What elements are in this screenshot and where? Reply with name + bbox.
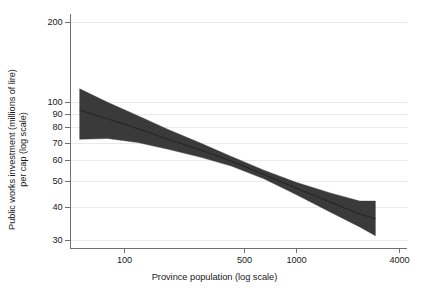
y-tick-label: 200 <box>47 17 62 27</box>
y-tick-label: 50 <box>52 176 62 186</box>
x-tick-label: 100 <box>117 255 132 265</box>
x-tick-label: 1000 <box>286 255 306 265</box>
y-tick-label: 100 <box>47 97 62 107</box>
chart-figure: Public works investment (millions of lir… <box>0 0 429 299</box>
y-tick-label: 30 <box>52 235 62 245</box>
x-axis-ticks: 10050010004000 <box>117 248 410 265</box>
y-tick-label: 70 <box>52 138 62 148</box>
y-tick-label: 80 <box>52 122 62 132</box>
x-tick-label: 500 <box>237 255 252 265</box>
confidence-band <box>80 89 376 236</box>
y-tick-label: 90 <box>52 109 62 119</box>
x-tick-label: 4000 <box>389 255 409 265</box>
y-tick-label: 40 <box>52 202 62 212</box>
y-tick-label: 60 <box>52 155 62 165</box>
plot-area: 30405060708090100200 10050010004000 <box>0 0 429 299</box>
y-axis-ticks: 30405060708090100200 <box>47 17 70 245</box>
